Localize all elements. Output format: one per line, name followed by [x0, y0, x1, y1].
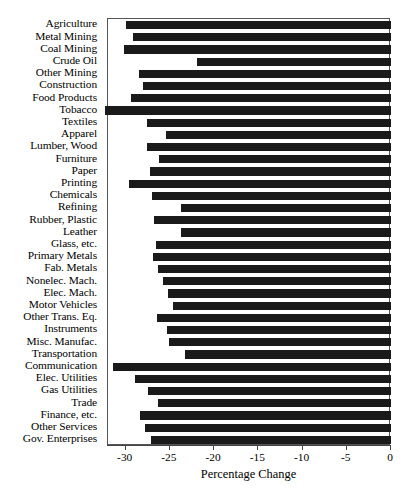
category-label: Printing [0, 177, 101, 189]
bar-row [108, 131, 389, 139]
category-label: Trade [0, 396, 101, 408]
category-label: Leather [0, 225, 101, 237]
bar-row [108, 216, 389, 224]
bar-row [108, 302, 389, 310]
bar [158, 399, 391, 407]
bar-row [108, 33, 389, 41]
bar [113, 363, 391, 371]
bar-row [108, 241, 389, 249]
bar-row [108, 338, 389, 346]
bar-row [108, 265, 389, 273]
x-tick-label: -10 [294, 452, 309, 463]
category-label: Metal Mining [0, 30, 101, 42]
bar-row [108, 204, 389, 212]
bar-row [108, 399, 389, 407]
category-label: Refining [0, 201, 101, 213]
bar-chart-figure: AgricultureMetal MiningCoal MiningCrude … [0, 0, 406, 490]
category-label: Nonelec. Mach. [0, 274, 101, 286]
bar-row [108, 180, 389, 188]
category-label: Lumber, Wood [0, 140, 101, 152]
bar-row [108, 253, 389, 261]
category-label: Communication [0, 360, 101, 372]
bar-row [108, 21, 389, 29]
category-label: Misc. Manufac. [0, 335, 101, 347]
x-tick [169, 445, 170, 450]
category-label: Motor Vehicles [0, 299, 101, 311]
bar-row [108, 424, 389, 432]
category-label: Other Mining [0, 67, 101, 79]
category-label: Elec. Mach. [0, 286, 101, 298]
bar-row [108, 411, 389, 419]
bar [131, 94, 391, 102]
bar [147, 119, 391, 127]
category-label: Food Products [0, 91, 101, 103]
bar-row [108, 326, 389, 334]
category-label: Tobacco [0, 103, 101, 115]
bar-row [108, 192, 389, 200]
bar [150, 167, 391, 175]
bar [169, 338, 391, 346]
bar [133, 33, 391, 41]
bar [181, 204, 391, 212]
bar [158, 265, 391, 273]
category-axis-labels: AgricultureMetal MiningCoal MiningCrude … [0, 18, 101, 445]
bar [145, 424, 391, 432]
category-label: Instruments [0, 323, 101, 335]
bar [151, 436, 391, 444]
bar [148, 387, 391, 395]
bar [154, 216, 391, 224]
x-tick-label: -15 [250, 452, 265, 463]
bar [126, 21, 391, 29]
bar [185, 350, 391, 358]
bar-row [108, 436, 389, 444]
x-axis: -30-25-20-15-10-50 [107, 445, 390, 446]
bar [153, 253, 391, 261]
category-label: Other Trans. Eq. [0, 311, 101, 323]
category-label: Construction [0, 79, 101, 91]
category-label: Coal Mining [0, 42, 101, 54]
bar-row [108, 106, 389, 114]
category-label: Primary Metals [0, 250, 101, 262]
bar-row [108, 228, 389, 236]
bar-row [108, 350, 389, 358]
bar-row [108, 277, 389, 285]
category-label: Finance, etc. [0, 409, 101, 421]
bar [181, 228, 391, 236]
x-tick [257, 445, 258, 450]
bar [167, 326, 391, 334]
bar-row [108, 143, 389, 151]
category-label: Agriculture [0, 18, 101, 30]
bar [168, 289, 391, 297]
category-label: Furniture [0, 152, 101, 164]
bar [152, 192, 391, 200]
category-label: Fab. Metals [0, 262, 101, 274]
bar [105, 106, 391, 114]
bar-row [108, 363, 389, 371]
bar [139, 70, 391, 78]
category-label: Elec. Utilities [0, 372, 101, 384]
bar [129, 180, 391, 188]
category-label: Rubber, Plastic [0, 213, 101, 225]
x-tick-label: -25 [161, 452, 176, 463]
category-label: Gas Utilities [0, 384, 101, 396]
bar [135, 375, 391, 383]
category-label: Gov. Enterprises [0, 433, 101, 445]
category-label: Other Services [0, 421, 101, 433]
x-tick-label: 0 [387, 452, 393, 463]
bars-layer [108, 19, 389, 444]
bar-row [108, 58, 389, 66]
bar [147, 143, 391, 151]
bar [143, 82, 391, 90]
bar [173, 302, 391, 310]
bar [156, 241, 391, 249]
bar-row [108, 289, 389, 297]
x-tick [346, 445, 347, 450]
x-tick-label: -30 [117, 452, 132, 463]
x-tick-label: -5 [341, 452, 351, 463]
bar [157, 314, 391, 322]
bar [159, 155, 391, 163]
bar-row [108, 314, 389, 322]
plot-area [107, 18, 390, 445]
bar-row [108, 387, 389, 395]
category-label: Transportation [0, 347, 101, 359]
